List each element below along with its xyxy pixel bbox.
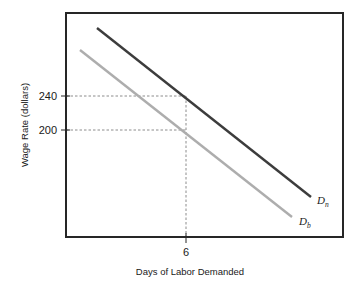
chart-figure: 240 200 6 Wage Rate (dollars) Days of La… <box>0 0 356 282</box>
plot-background <box>66 13 343 237</box>
x-axis-title: Days of Labor Demanded <box>136 266 244 277</box>
curve-label-dn-subscript: n <box>325 200 329 209</box>
curve-label-dn-letter: D <box>316 194 325 206</box>
y-axis-title: Wage Rate (dollars) <box>19 83 30 167</box>
curve-label-db-letter: D <box>298 215 307 227</box>
y-tick-label-200: 200 <box>39 124 57 136</box>
curve-label-db-subscript: b <box>307 221 311 230</box>
y-tick-label-240: 240 <box>39 90 57 102</box>
labor-demand-line-chart: 240 200 6 Wage Rate (dollars) Days of La… <box>0 0 356 282</box>
x-tick-label-6: 6 <box>183 246 189 258</box>
